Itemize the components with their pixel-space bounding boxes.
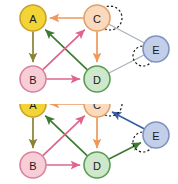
edge-c-e xyxy=(109,25,143,43)
edge-d-to-a xyxy=(46,30,87,69)
edge-b-to-c xyxy=(43,30,84,69)
nodes-layer: ABCDE xyxy=(20,5,169,92)
graph-node-c[interactable]: C xyxy=(84,5,110,31)
graph-node-d[interactable]: D xyxy=(84,66,110,92)
edge-d-to-e-new xyxy=(109,143,140,159)
graph-node-b[interactable]: B xyxy=(20,152,46,178)
graph-node-b[interactable]: B xyxy=(20,66,46,92)
graph-frame-2: ABCDE xyxy=(0,104,178,184)
edge-b-to-c xyxy=(43,116,84,155)
edge-d-to-a xyxy=(46,116,87,155)
edge-d-e xyxy=(109,55,143,72)
graph-node-d[interactable]: D xyxy=(84,152,110,178)
figure-container: ABCDE ABCDE xyxy=(0,0,178,184)
graph-node-a[interactable]: A xyxy=(20,104,46,117)
graph-node-e[interactable]: E xyxy=(143,122,169,148)
graph-node-a[interactable]: A xyxy=(20,5,46,31)
graph-frame-1: ABCDE xyxy=(0,0,178,100)
nodes-layer: ABCDE xyxy=(20,104,169,178)
edge-e-to-c-new xyxy=(112,112,143,128)
graph-node-e[interactable]: E xyxy=(143,36,169,62)
